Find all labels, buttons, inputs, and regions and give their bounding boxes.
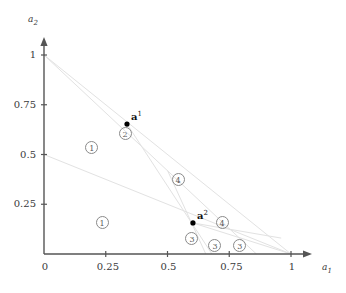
scatter-plot-figure: a2 a1 00.250.50.7510.250.50.751 12144333… (0, 0, 346, 293)
y-tick-label-1: 1 (0, 49, 36, 60)
x-tick-label-0.75: 0.75 (220, 261, 240, 272)
x-tick-label-1: 1 (282, 261, 302, 272)
data-point-a2 (190, 220, 195, 225)
region-label-1-2: 1 (96, 216, 109, 229)
tick-marks (41, 55, 291, 257)
x-axis-title: a1 (322, 262, 332, 275)
y-axis-title: a2 (28, 14, 38, 27)
construction-lines (44, 55, 291, 254)
region-label-4-4: 4 (216, 216, 229, 229)
y-axis-arrowhead (40, 37, 47, 46)
line-from-left-mid-to-lower-right (44, 155, 291, 255)
x-tick-label-0.25: 0.25 (97, 261, 117, 272)
x-tick-label-0: 0 (35, 261, 55, 272)
x-tick-label-0.5: 0.5 (159, 261, 179, 272)
point-label-a1: a1 (131, 110, 142, 122)
y-tick-label-0.75: 0.75 (0, 99, 36, 110)
point-label-a2: a2 (197, 209, 208, 221)
axes-group (40, 37, 312, 258)
plot-canvas (0, 0, 346, 293)
region-label-3-6: 3 (208, 239, 221, 252)
y-tick-label-0.5: 0.5 (0, 149, 36, 160)
x-axis-arrowhead (303, 250, 312, 257)
y-tick-label-0.25: 0.25 (0, 198, 36, 209)
data-point-a1 (124, 121, 129, 126)
region-label-3-5: 3 (185, 232, 198, 245)
region-label-2-1: 2 (119, 127, 132, 140)
region-label-3-7: 3 (233, 239, 246, 252)
line-a1-to-a2-extended-down (127, 124, 212, 254)
line-from-origin-top-to-a2-extended (44, 55, 291, 254)
